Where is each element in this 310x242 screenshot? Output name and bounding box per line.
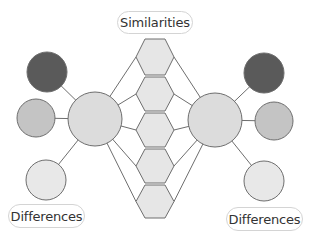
differences-label-right: Differences	[226, 207, 303, 231]
similarity-hexagon-3	[136, 113, 174, 147]
right-difference-circle-medium	[255, 102, 293, 140]
similarity-hexagon-2	[136, 77, 174, 111]
similarity-hexagon-1	[136, 39, 174, 75]
differences-label-left: Differences	[8, 204, 85, 228]
left-difference-circle-dark	[27, 52, 67, 92]
similarity-hexagons	[136, 39, 174, 218]
left-main-circle	[68, 92, 122, 146]
similarity-hexagon-4	[136, 149, 174, 183]
right-difference-circle-light	[244, 161, 284, 201]
similarities-label: Similarities	[117, 11, 193, 34]
left-difference-circle-medium	[17, 99, 55, 137]
right-main-circle	[188, 93, 242, 147]
left-difference-circle-light	[26, 160, 66, 200]
right-difference-circle-dark	[244, 53, 284, 93]
similarity-hexagon-5	[136, 185, 174, 218]
